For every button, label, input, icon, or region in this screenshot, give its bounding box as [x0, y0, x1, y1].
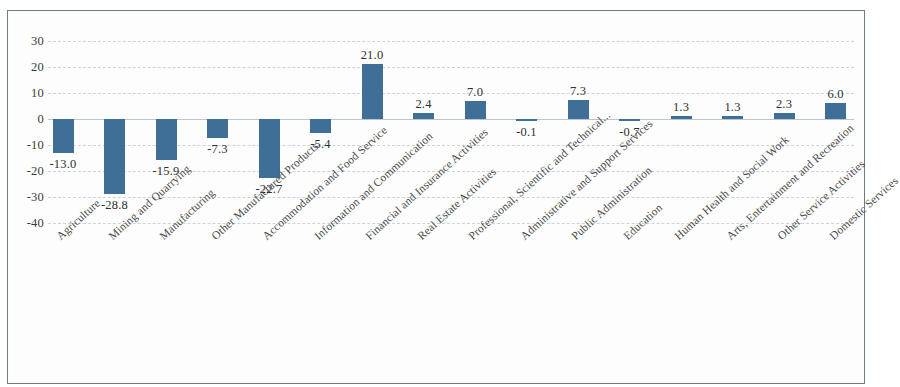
bar-value-label: -0.1 — [497, 126, 557, 139]
bar-value-label: 21.0 — [342, 49, 402, 62]
gridline — [48, 223, 854, 224]
bar-value-label: 6.0 — [806, 88, 866, 101]
bar-chart-plot-area: 3020100-10-20-30-40 -13.0-28.8-15.9-7.3-… — [8, 11, 866, 385]
bar-value-label: 2.4 — [394, 98, 454, 111]
bar-value-label: -22.7 — [239, 183, 299, 196]
bar[interactable] — [104, 119, 125, 194]
bar[interactable] — [516, 119, 537, 121]
bar[interactable] — [825, 103, 846, 119]
y-axis-tick-label: 30 — [14, 35, 44, 48]
bar-value-label: 7.3 — [548, 85, 608, 98]
x-axis-category-label: Real Estate Activities — [415, 165, 498, 242]
bar[interactable] — [774, 113, 795, 119]
gridline — [48, 41, 854, 42]
gridline — [48, 197, 854, 198]
bar-value-label: -7.3 — [188, 143, 248, 156]
bar-value-label: -5.4 — [291, 138, 351, 151]
bar[interactable] — [671, 116, 692, 119]
bar-value-label: -13.0 — [33, 158, 93, 171]
bar[interactable] — [156, 119, 177, 160]
bar-value-label: -0.7 — [600, 126, 660, 139]
y-axis-tick-label: -30 — [14, 191, 44, 204]
bar[interactable] — [362, 64, 383, 119]
bar-value-label: -15.9 — [136, 165, 196, 178]
bar[interactable] — [465, 101, 486, 119]
x-axis-category-label: Public Administration — [569, 164, 654, 242]
x-axis-category-label: Education — [621, 201, 664, 242]
x-axis-category-label: Financial and Insurance Activities — [363, 126, 490, 242]
bar[interactable] — [619, 119, 640, 121]
bar[interactable] — [568, 100, 589, 119]
bar-value-label: 7.0 — [445, 86, 505, 99]
bar-value-label: -28.8 — [85, 199, 145, 212]
x-axis-category-label: Domestic Services — [827, 174, 900, 242]
chart-frame: 3020100-10-20-30-40 -13.0-28.8-15.9-7.3-… — [7, 10, 865, 384]
y-axis-tick-label: -40 — [14, 217, 44, 230]
gridline — [48, 67, 854, 68]
bar[interactable] — [722, 116, 743, 119]
bar[interactable] — [207, 119, 228, 138]
y-axis-tick-label: 20 — [14, 61, 44, 74]
bar[interactable] — [413, 113, 434, 119]
y-axis-tick-label: 0 — [14, 113, 44, 126]
bar[interactable] — [310, 119, 331, 133]
y-axis-tick-label: -10 — [14, 139, 44, 152]
x-axis-category-label: Human Health and Social Work — [672, 133, 791, 242]
y-axis-tick-label: 10 — [14, 87, 44, 100]
bar[interactable] — [53, 119, 74, 153]
x-axis-category-label: Manufacturing — [157, 186, 217, 242]
bar[interactable] — [259, 119, 280, 178]
